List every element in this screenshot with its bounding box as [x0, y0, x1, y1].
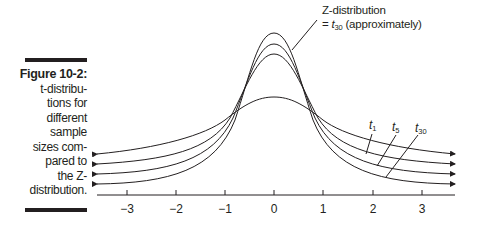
z-curve: [97, 33, 455, 184]
x-tick-label: −3: [117, 202, 137, 216]
t5-label-sub: 5: [395, 126, 399, 135]
t30-curve: [97, 44, 455, 174]
t30-leader-line: [386, 135, 418, 177]
z-annotation-line2: = t30 (approximately): [322, 18, 422, 34]
x-tick-label: 1: [313, 202, 333, 216]
x-tick-label: 0: [264, 202, 284, 216]
x-tick-label: 3: [412, 202, 432, 216]
x-tick-label: −2: [166, 202, 186, 216]
t5-label: t5: [392, 120, 400, 135]
x-tick-label: −1: [215, 202, 235, 216]
x-tick-label: 2: [363, 202, 383, 216]
t5-curve: [97, 54, 455, 164]
t1-curve: [97, 97, 455, 154]
t30-label: t30: [415, 121, 427, 136]
equals-sign: =: [322, 18, 332, 30]
t30-label-sub: 30: [418, 127, 426, 136]
t1-label: t1: [369, 118, 377, 133]
t1-label-sub: 1: [372, 124, 376, 133]
distribution-chart: [0, 0, 478, 228]
z-annotation-line1: Z-distribution: [322, 4, 386, 17]
approx-text: (approximately): [342, 18, 421, 30]
z-annotation-text: Z-distribution: [322, 4, 386, 16]
t1-leader-line: [366, 134, 372, 154]
t5-leader-line: [377, 135, 396, 166]
z-leader-line: [292, 20, 317, 50]
